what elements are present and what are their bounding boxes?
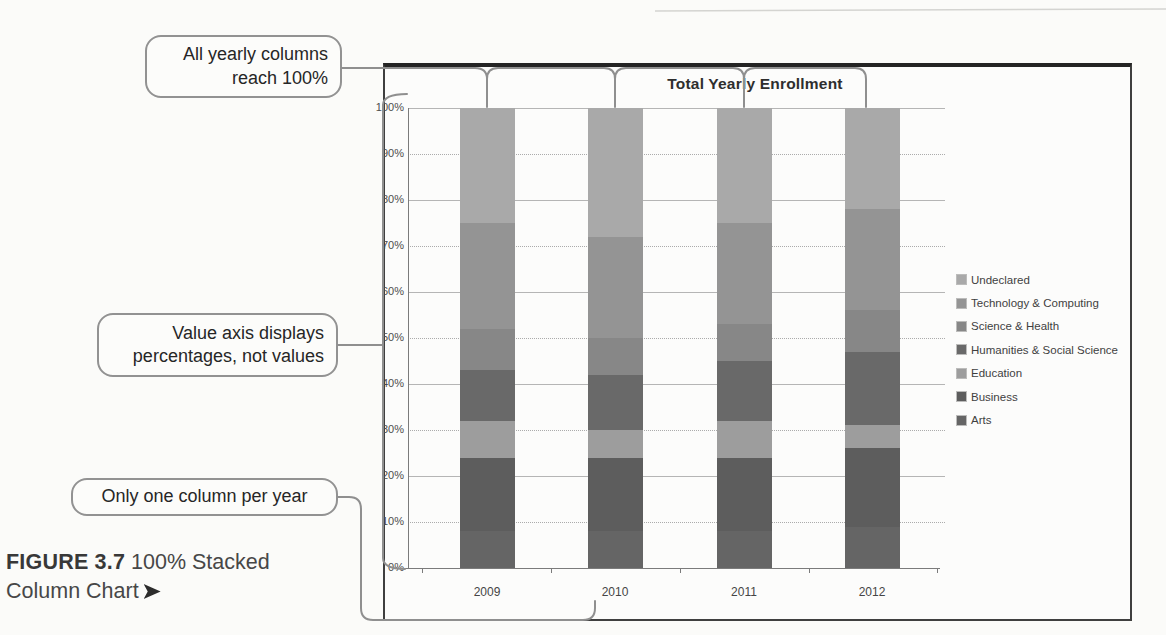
caption-line-2: Column Chart [6, 577, 270, 606]
column-segment [845, 527, 900, 568]
y-axis-label: 40% [358, 377, 404, 389]
legend-swatch [957, 322, 966, 331]
legend-swatch [957, 416, 966, 425]
legend-label: Education [971, 367, 1022, 379]
x-axis-label: 2012 [842, 585, 902, 599]
column-segment [717, 458, 772, 532]
category-axis-tick [422, 568, 423, 573]
column-segment [717, 324, 772, 361]
callout-text-line: All yearly columns [155, 43, 328, 66]
chart-title: Total Yearly Enrollment [655, 75, 855, 93]
category-axis-tick [551, 568, 552, 573]
column-segment [588, 531, 643, 568]
x-axis-label: 2009 [457, 585, 517, 599]
category-axis-tick [680, 568, 681, 573]
column-segment [460, 370, 515, 421]
legend-swatch [957, 392, 966, 401]
caption-line-1: FIGURE 3.7 100% Stacked [6, 548, 270, 577]
y-axis-label: 10% [358, 515, 404, 527]
column-segment [460, 223, 515, 329]
caption-text: Column Chart [6, 579, 139, 603]
column-segment [845, 352, 900, 426]
column-segment [588, 338, 643, 375]
column-segment [845, 425, 900, 448]
column-segment [460, 329, 515, 370]
column-segment [460, 108, 515, 223]
legend-label: Humanities & Social Science [971, 344, 1118, 356]
scan-artifact-line [655, 9, 1166, 11]
y-axis-label: 50% [358, 331, 404, 343]
legend-label: Business [971, 391, 1018, 403]
y-axis-label: 70% [358, 239, 404, 251]
column-segment [588, 375, 643, 430]
caption-text: 100% Stacked [125, 550, 270, 574]
caption-arrow-icon [144, 584, 161, 599]
callout-text-line: Only one column per year [81, 485, 328, 508]
legend-item: Education [957, 362, 1132, 385]
legend-swatch [957, 369, 966, 378]
column-segment [717, 361, 772, 421]
column-segment [845, 310, 900, 351]
column-segment [588, 458, 643, 532]
y-axis-label: 80% [358, 193, 404, 205]
legend-item: Humanities & Social Science [957, 338, 1132, 361]
column-segment [460, 458, 515, 532]
legend-item: Science & Health [957, 315, 1132, 338]
callout-value-axis-percentages: Value axis displays percentages, not val… [97, 313, 338, 377]
column-segment [717, 108, 772, 223]
legend-swatch [957, 345, 966, 354]
column-segment [588, 108, 643, 237]
callout-text-line: reach 100% [155, 67, 328, 90]
column-segment [460, 421, 515, 458]
legend-item: Undeclared [957, 268, 1132, 291]
y-axis-label: 100% [358, 101, 404, 113]
y-axis-label: 0% [358, 561, 404, 573]
y-axis-label: 30% [358, 423, 404, 435]
column-segment [845, 448, 900, 526]
legend-swatch [957, 275, 966, 284]
legend-item: Arts [957, 408, 1132, 431]
category-axis-tick [809, 568, 810, 573]
legend-item: Technology & Computing [957, 291, 1132, 314]
legend-item: Business [957, 385, 1132, 408]
legend-label: Science & Health [971, 320, 1059, 332]
legend-swatch [957, 299, 966, 308]
value-axis-line [408, 108, 409, 568]
legend-label: Technology & Computing [971, 297, 1099, 309]
y-axis-label: 60% [358, 285, 404, 297]
column-segment [588, 430, 643, 458]
x-axis-label: 2010 [585, 585, 645, 599]
callout-text-line: percentages, not values [107, 345, 324, 368]
figure-caption: FIGURE 3.7 100% Stacked Column Chart [6, 548, 270, 606]
y-axis-label: 20% [358, 469, 404, 481]
category-axis-tick [937, 568, 938, 573]
column-segment [717, 531, 772, 568]
callout-one-column-per-year: Only one column per year [71, 478, 338, 516]
page: Total Yearly Enrollment 100%90%80%70%60%… [0, 0, 1166, 635]
column-segment [845, 209, 900, 310]
column-segment [717, 421, 772, 458]
callout-all-columns-reach-100: All yearly columns reach 100% [145, 35, 342, 98]
caption-figure-number: FIGURE 3.7 [6, 550, 125, 574]
legend-label: Arts [971, 414, 991, 426]
column-segment [460, 531, 515, 568]
callout-text-line: Value axis displays [107, 322, 324, 345]
x-axis-label: 2011 [714, 585, 774, 599]
y-axis-label: 90% [358, 147, 404, 159]
column-segment [717, 223, 772, 324]
legend-label: Undeclared [971, 274, 1030, 286]
column-segment [845, 108, 900, 209]
column-segment [588, 237, 643, 338]
category-axis-line [405, 568, 940, 569]
